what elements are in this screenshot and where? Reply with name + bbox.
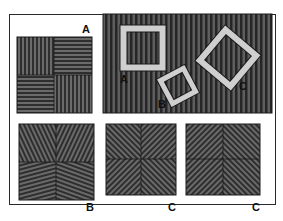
panel-b-oblique — [19, 124, 94, 200]
label-panel-c2: C — [252, 202, 260, 213]
label-square-b: B — [158, 99, 166, 110]
illusion-figure — [0, 0, 283, 221]
panel-c-converging — [106, 124, 176, 195]
panel-a-quadrants — [17, 37, 92, 113]
label-panel-a: A — [82, 24, 90, 35]
label-panel-c1: C — [168, 202, 176, 213]
label-square-a: A — [120, 74, 128, 85]
label-panel-b: B — [86, 202, 94, 213]
panel-c-chevron — [186, 124, 260, 195]
label-square-c: C — [239, 81, 247, 92]
panel-squares-on-stripes — [103, 14, 272, 113]
